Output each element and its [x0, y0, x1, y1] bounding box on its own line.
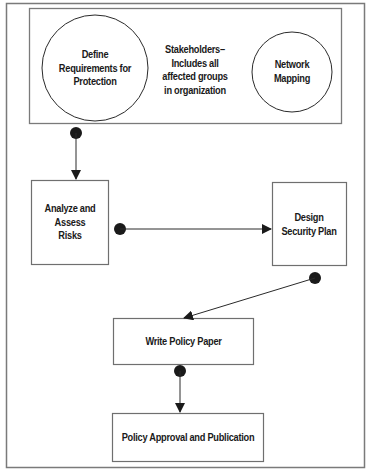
analyze-risks-label: Analyze and Assess Risks — [35, 202, 105, 243]
write-policy-label: Write Policy Paper — [121, 335, 245, 349]
edge-analyze-to-design — [114, 223, 271, 235]
network-mapping-label: Network Mapping — [259, 58, 326, 85]
define-requirements-label: Define Requirements for Protection — [48, 48, 141, 89]
design-plan-label: Design Security Plan — [273, 211, 345, 238]
edge-design-to-write-policy — [184, 272, 321, 318]
policy-approval-label: Policy Approval and Publication — [114, 431, 262, 445]
edge-write-policy-to-approval — [174, 365, 186, 412]
stakeholders-label: Stakeholders– Includes all affected grou… — [154, 43, 237, 97]
diagram-canvas: Define Requirements for Protection Stake… — [0, 0, 371, 472]
edge-stakeholders-to-analyze — [70, 127, 82, 179]
